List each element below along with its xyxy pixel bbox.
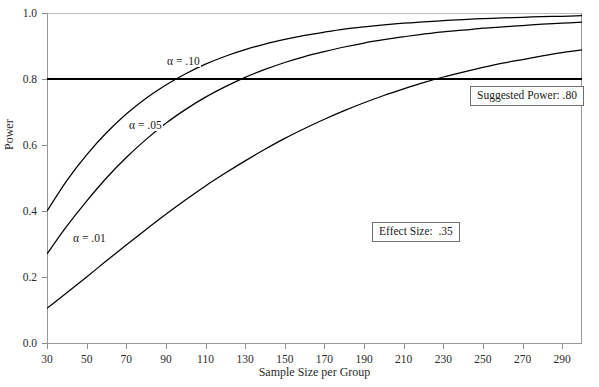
x-tick <box>324 344 325 349</box>
curve-label-alpha-01: α = .01 <box>72 232 107 244</box>
y-tick-label: 0.0 <box>23 337 37 349</box>
x-tick-label: 90 <box>160 353 172 365</box>
x-tick-label: 70 <box>121 353 133 365</box>
curve-label-alpha-1: α = .10 <box>166 55 201 67</box>
x-tick <box>47 344 48 349</box>
power-curve-chart: 30507090110130150170190210230250270290 0… <box>0 0 599 387</box>
x-tick <box>562 344 563 349</box>
x-tick <box>206 344 207 349</box>
x-tick <box>245 344 246 349</box>
x-tick <box>166 344 167 349</box>
y-tick-label: 0.2 <box>23 271 37 283</box>
x-axis-title: Sample Size per Group <box>47 365 582 380</box>
x-tick <box>443 344 444 349</box>
y-axis-title: Power <box>2 119 17 150</box>
x-tick-label: 150 <box>276 353 293 365</box>
y-tick-label: 0.8 <box>23 73 37 85</box>
x-tick <box>285 344 286 349</box>
x-tick-label: 50 <box>81 353 93 365</box>
x-tick-label: 210 <box>395 353 412 365</box>
y-tick-label: 0.6 <box>23 139 37 151</box>
x-tick <box>483 344 484 349</box>
x-tick <box>126 344 127 349</box>
y-tick-label: 1.0 <box>23 7 37 19</box>
x-tick-label: 110 <box>197 353 214 365</box>
x-tick <box>523 344 524 349</box>
x-tick-label: 230 <box>435 353 452 365</box>
x-axis-line <box>47 343 582 344</box>
curve-label-alpha-05: α = .05 <box>128 119 163 131</box>
x-tick-label: 250 <box>474 353 491 365</box>
x-tick-label: 170 <box>316 353 333 365</box>
x-tick-label: 270 <box>514 353 531 365</box>
x-tick <box>87 344 88 349</box>
y-tick <box>42 343 47 344</box>
x-tick <box>404 344 405 349</box>
effect-size-annotation: Effect Size: .35 <box>372 222 460 242</box>
plot-area: 30507090110130150170190210230250270290 0… <box>47 13 582 343</box>
power-curve-alpha-1 <box>47 16 582 211</box>
x-tick <box>364 344 365 349</box>
power-curve-alpha-05 <box>47 22 582 254</box>
x-tick-label: 190 <box>355 353 372 365</box>
x-tick-label: 290 <box>554 353 571 365</box>
x-tick-label: 30 <box>41 353 53 365</box>
y-tick-label: 0.4 <box>23 205 37 217</box>
x-tick-label: 130 <box>237 353 254 365</box>
suggested-power-annotation: Suggested Power: .80 <box>470 86 584 106</box>
curve-layer <box>47 13 582 343</box>
